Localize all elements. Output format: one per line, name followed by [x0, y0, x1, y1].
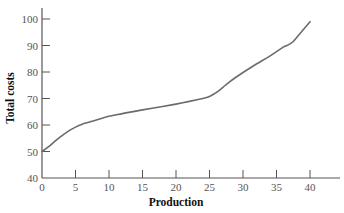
total-costs-chart: 405060708090100 0510152025303540 Product… [0, 0, 344, 213]
x-tick-label: 15 [137, 181, 149, 193]
y-tick-label: 80 [27, 66, 39, 78]
y-tick-label: 40 [27, 172, 39, 184]
y-axis: 405060708090100 [22, 8, 51, 184]
y-tick-label: 50 [27, 146, 39, 158]
y-axis-title: Total costs [4, 72, 16, 124]
x-tick-label: 30 [238, 181, 250, 193]
x-tick-label: 40 [305, 181, 317, 193]
x-tick-label: 10 [104, 181, 116, 193]
x-tick-label: 25 [204, 181, 216, 193]
y-tick-label: 60 [27, 119, 39, 131]
x-axis: 0510152025303540 [39, 170, 340, 193]
y-tick-label: 100 [22, 13, 39, 25]
x-tick-label: 35 [271, 181, 283, 193]
x-tick-label: 0 [39, 181, 45, 193]
x-tick-label: 5 [73, 181, 79, 193]
x-axis-title: Production [149, 196, 204, 208]
y-tick-label: 70 [27, 93, 39, 105]
total-costs-line [42, 22, 310, 152]
x-tick-label: 20 [171, 181, 183, 193]
y-tick-label: 90 [27, 40, 39, 52]
